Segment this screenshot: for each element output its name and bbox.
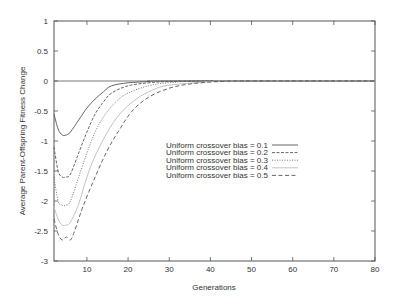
x-tick-label: 30 — [165, 265, 174, 274]
y-axis-title: Average Parent-Offspring Fitness Change — [18, 66, 27, 215]
y-tick-label: -1 — [41, 137, 49, 146]
y-tick-label: -1.5 — [34, 167, 48, 176]
legend-label: Uniform crossover bias = 0.5 — [166, 171, 269, 180]
x-tick-label: 60 — [288, 265, 297, 274]
x-tick-label: 40 — [206, 265, 215, 274]
x-tick-label: 10 — [82, 265, 91, 274]
y-tick-label: 0.5 — [37, 47, 49, 56]
x-tick-label: 50 — [247, 265, 256, 274]
line-chart: 1020304050607080 10.50-0.5-1-1.5-2-2.5-3… — [0, 0, 397, 298]
y-tick-label: -0.5 — [34, 107, 48, 116]
x-tick-label: 70 — [329, 265, 338, 274]
y-tick-label: 1 — [44, 17, 49, 26]
y-tick-label: -2 — [41, 197, 49, 206]
y-tick-label: -2.5 — [34, 227, 48, 236]
y-tick-label: 0 — [44, 77, 49, 86]
x-axis-title: Generations — [192, 283, 236, 292]
legend: Uniform crossover bias = 0.1Uniform cros… — [166, 141, 298, 180]
x-tick-label: 80 — [371, 265, 380, 274]
x-tick-label: 20 — [124, 265, 133, 274]
series-line-1 — [54, 81, 375, 136]
y-tick-label: -3 — [41, 257, 49, 266]
